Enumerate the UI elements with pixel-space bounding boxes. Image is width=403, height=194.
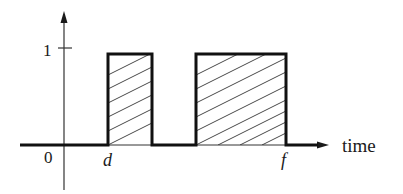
first-pulse-hatching: [108, 53, 152, 145]
x-axis-label: time: [342, 135, 376, 156]
origin-label: 0: [44, 148, 53, 167]
second-pulse-hatching: [196, 30, 286, 145]
d-label: d: [103, 150, 113, 170]
y-axis-arrow-icon: [61, 11, 68, 23]
signal-path: [20, 54, 318, 145]
y-axis: [58, 11, 72, 190]
x-axis-arrow-icon: [317, 142, 329, 149]
pulse-diagram: 1 0 d f time: [0, 0, 403, 194]
y-tick-label: 1: [43, 41, 52, 60]
f-label: f: [281, 150, 289, 170]
